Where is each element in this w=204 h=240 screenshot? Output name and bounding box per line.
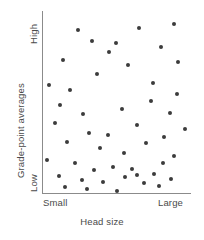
data-point <box>73 161 78 166</box>
data-point <box>152 172 157 177</box>
data-point <box>68 88 73 93</box>
scatter-plot-figure: High Low Grade-point averages Small Larg… <box>0 0 204 240</box>
data-point <box>135 173 140 178</box>
data-point <box>176 60 181 65</box>
x-axis-tick-small: Small <box>43 197 68 208</box>
data-point <box>95 72 100 77</box>
data-point <box>101 180 106 185</box>
data-point <box>65 140 70 145</box>
data-point <box>81 112 86 117</box>
data-point <box>76 28 81 33</box>
data-point <box>151 81 156 86</box>
data-point <box>137 26 142 31</box>
data-point <box>98 146 103 151</box>
data-point <box>106 133 111 138</box>
data-point <box>130 167 135 172</box>
data-point <box>120 107 125 112</box>
data-point <box>114 41 119 46</box>
data-point <box>92 168 97 173</box>
y-axis-tick-high: High <box>28 24 39 44</box>
data-point <box>123 175 128 180</box>
data-point <box>53 121 58 126</box>
plot-area <box>43 11 191 193</box>
data-point <box>107 50 112 55</box>
data-point <box>80 178 85 183</box>
data-point <box>168 111 173 116</box>
data-point <box>159 45 164 50</box>
data-point <box>142 181 147 186</box>
data-point <box>161 161 166 166</box>
x-axis-tick-large: Large <box>158 197 183 208</box>
data-point <box>172 154 177 159</box>
data-point <box>47 83 52 88</box>
data-point <box>172 22 177 27</box>
data-point <box>149 99 154 104</box>
data-point <box>45 158 50 163</box>
data-point <box>85 187 90 192</box>
data-point <box>162 135 167 140</box>
data-point <box>90 39 95 44</box>
y-axis-title: Grade-point averages <box>15 83 26 178</box>
data-point <box>157 184 162 189</box>
data-point <box>126 63 131 68</box>
data-point <box>111 165 116 170</box>
x-axis-line <box>42 193 191 194</box>
data-point <box>183 127 188 132</box>
data-point <box>135 123 140 128</box>
data-point <box>61 58 66 63</box>
data-point <box>122 151 127 156</box>
data-point <box>115 189 120 194</box>
data-point <box>169 177 174 182</box>
data-point <box>63 185 68 190</box>
data-point <box>144 141 149 146</box>
data-point <box>87 131 92 136</box>
y-axis-tick-low: Low <box>28 174 39 192</box>
data-point <box>57 174 62 179</box>
x-axis-title: Head size <box>0 216 204 227</box>
data-point <box>58 103 63 108</box>
data-point <box>175 92 180 97</box>
